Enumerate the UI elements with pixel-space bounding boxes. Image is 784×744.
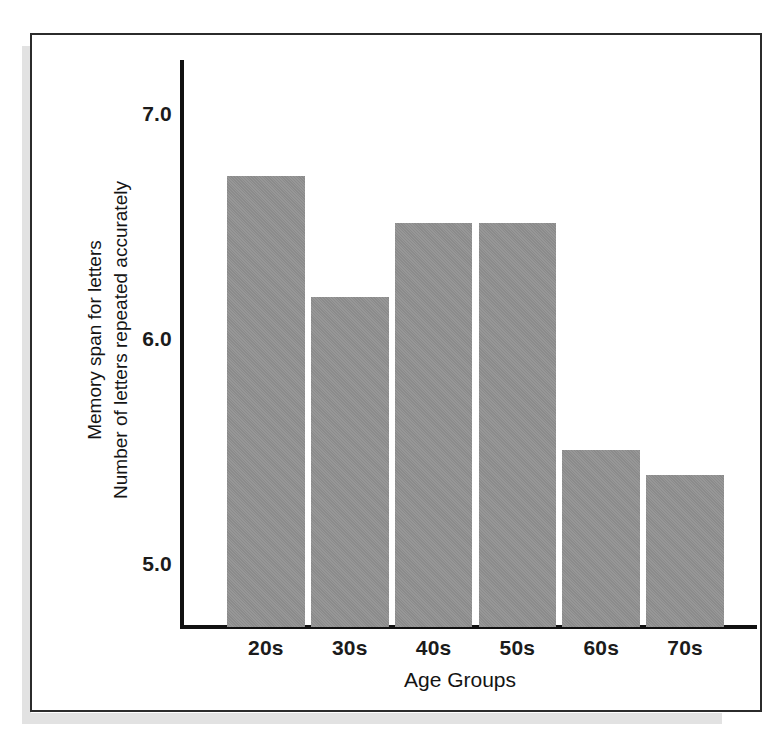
y-tick-5-0: 5.0 [108, 552, 172, 578]
x-tick-label-50s: 50s [479, 636, 557, 660]
figure-canvas: Memory span for letters Number of letter… [0, 0, 784, 744]
bar-30s [311, 297, 389, 627]
y-tick-7-0: 7.0 [108, 102, 172, 128]
bar-40s [395, 223, 473, 627]
bar-70s [646, 475, 724, 627]
y-tick-label: 5.0 [112, 552, 172, 576]
plot-area: Memory span for letters Number of letter… [0, 0, 784, 744]
x-tick-label-30s: 30s [311, 636, 389, 660]
y-tick-label: 6.0 [112, 327, 172, 351]
y-tick-label: 7.0 [112, 102, 172, 126]
bar-50s [479, 223, 557, 627]
y-tick-6-0: 6.0 [108, 327, 172, 353]
x-tick-label-40s: 40s [395, 636, 473, 660]
x-tick-label-70s: 70s [646, 636, 724, 660]
y-axis-title-line-1: Memory span for letters [82, 240, 108, 440]
x-tick-label-60s: 60s [562, 636, 640, 660]
y-axis-title: Memory span for letters Number of letter… [52, 140, 108, 540]
bar-60s [562, 450, 640, 627]
y-axis-line [180, 60, 184, 629]
bar-series [227, 60, 730, 627]
bar-20s [227, 176, 305, 627]
x-axis-title: Age Groups [180, 668, 740, 692]
x-tick-label-20s: 20s [227, 636, 305, 660]
